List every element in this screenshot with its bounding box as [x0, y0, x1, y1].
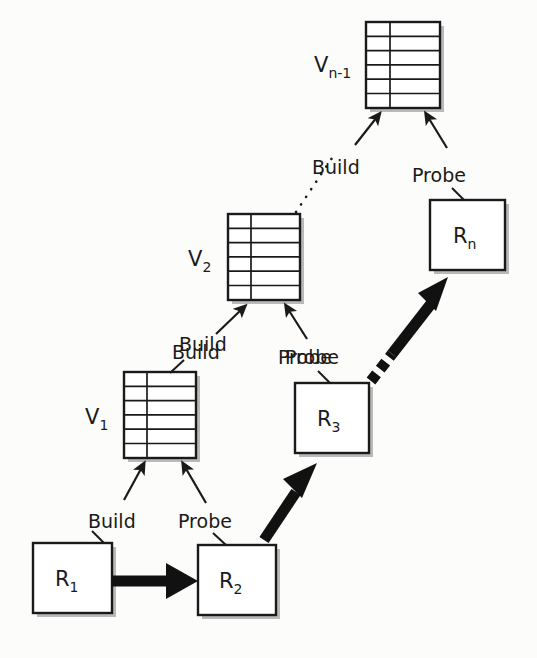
hash-table-vn1-label: Vn-1: [314, 53, 351, 81]
edge-dataflow-r1-r2: [112, 563, 198, 599]
hash-table-v1: [124, 372, 200, 462]
hash-table-v2: [228, 214, 304, 304]
diagram-canvas: Vn-1 Build Probe Rn: [0, 0, 537, 658]
edge-build-v2: [216, 309, 242, 334]
diagram-svg: Vn-1 Build Probe Rn: [0, 0, 537, 658]
edge-probe-v1: [185, 467, 206, 503]
hash-table-vn1: [366, 22, 444, 112]
leader-build-r1: [92, 531, 104, 543]
edge-label-probe-v1-bottom: Probe: [178, 510, 232, 532]
edge-build-v1: [124, 467, 142, 500]
edge-dataflow-r2-r3: [264, 463, 317, 540]
hash-table-v2-label: V2: [188, 247, 211, 275]
edge-dataflow-r3-rn: [371, 277, 448, 381]
edge-label-probe-r3: Probe: [285, 346, 339, 368]
hash-table-v1-label: V1: [85, 405, 108, 433]
leader-probe-rn: [452, 188, 464, 200]
leader-probe-r2: [213, 533, 226, 545]
edge-build-vn1: [355, 117, 377, 145]
leader-probe-r3: [318, 371, 330, 383]
edge-label-build-vn1: Build: [312, 156, 360, 178]
edge-probe-vn1: [428, 117, 447, 148]
edge-label-build-v1-top: Build: [179, 333, 227, 355]
edge-label-probe-vn1: Probe: [412, 164, 466, 186]
edge-probe-v2: [288, 309, 307, 339]
edge-label-build-v1-bottom: Build: [88, 510, 136, 532]
